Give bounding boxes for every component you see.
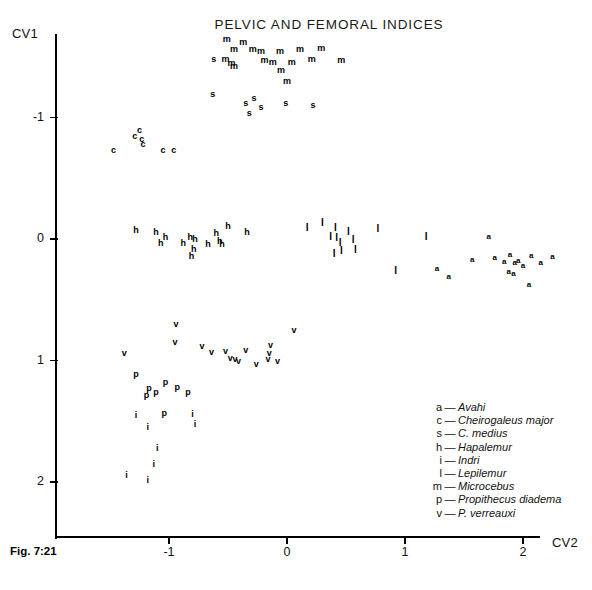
data-point-l: l (376, 224, 379, 234)
data-point-s: s (247, 108, 252, 117)
data-point-h: h (219, 239, 225, 248)
data-point-a: a (446, 273, 450, 281)
data-point-l: l (394, 266, 397, 276)
legend-key-p: p (428, 493, 442, 506)
x-tick-2 (404, 536, 406, 544)
data-point-v: v (172, 338, 177, 347)
data-point-s: s (259, 102, 264, 111)
legend-key-i: i (428, 454, 442, 467)
y-tick-1 (50, 238, 58, 240)
data-point-p: p (185, 388, 191, 397)
x-tick-label-1: 0 (275, 545, 299, 559)
legend-label-c: Cheirogaleus major (458, 414, 553, 426)
data-point-m: m (269, 57, 277, 66)
data-point-i: i (146, 423, 149, 432)
x-tick-0 (168, 536, 170, 544)
legend-item-c: c—Cheirogaleus major (428, 414, 561, 427)
data-point-m: m (230, 45, 238, 54)
data-point-l: l (340, 246, 343, 256)
legend-dash-icon: — (442, 454, 458, 467)
legend-label-v: P. verreauxi (458, 507, 515, 519)
data-point-p: p (133, 369, 139, 378)
figure-container: PELVIC AND FEMORAL INDICES CV1 CV2 -1012… (0, 0, 592, 590)
data-point-l: l (321, 218, 324, 228)
data-point-s: s (310, 101, 315, 110)
data-point-h: h (153, 227, 159, 236)
legend-key-v: v (428, 507, 442, 520)
legend-dash-icon: — (442, 467, 458, 480)
data-point-m: m (308, 55, 316, 64)
data-point-m: m (276, 46, 284, 55)
data-point-v: v (243, 345, 248, 354)
x-tick-3 (522, 536, 524, 544)
x-tick-label-3: 2 (511, 545, 535, 559)
data-point-v: v (254, 360, 259, 369)
x-tick-1 (286, 536, 288, 544)
data-point-a: a (492, 254, 496, 262)
legend-item-i: i—Indri (428, 454, 561, 467)
legend-dash-icon: — (442, 427, 458, 440)
y-axis-label: CV1 (12, 26, 38, 41)
legend-label-i: Indri (458, 454, 479, 466)
y-tick-0 (50, 117, 58, 119)
data-point-v: v (122, 349, 127, 358)
data-point-h: h (225, 221, 231, 230)
legend: a—Avahic—Cheirogaleus majors—C. mediush—… (428, 401, 561, 520)
legend-label-l: Lepilemur (458, 467, 506, 479)
legend-item-v: v—P. verreauxi (428, 507, 561, 520)
data-point-l: l (425, 232, 428, 242)
y-tick-label-1: 0 (14, 231, 44, 245)
data-point-m: m (288, 57, 296, 66)
data-point-m: m (257, 46, 265, 55)
data-point-i: i (135, 411, 138, 420)
data-point-c: c (111, 146, 116, 155)
data-point-m: m (261, 56, 269, 65)
data-point-a: a (527, 281, 531, 289)
data-point-a: a (529, 252, 533, 260)
data-point-m: m (277, 66, 285, 75)
legend-item-l: l—Lepilemur (428, 467, 561, 480)
data-point-h: h (205, 239, 211, 248)
legend-key-c: c (428, 414, 442, 427)
data-point-v: v (266, 355, 271, 364)
y-tick-label-2: 1 (14, 353, 44, 367)
y-axis-line (55, 34, 57, 539)
data-point-l: l (347, 227, 350, 237)
data-point-m: m (337, 56, 345, 65)
data-point-a: a (521, 262, 525, 270)
figure-caption: Fig. 7:21 (10, 545, 57, 557)
x-axis-label: CV2 (552, 535, 578, 550)
data-point-m: m (249, 45, 257, 54)
data-point-a: a (435, 265, 439, 273)
y-tick-label-3: 2 (14, 474, 44, 488)
legend-key-h: h (428, 441, 442, 454)
legend-item-a: a—Avahi (428, 401, 561, 414)
x-tick-label-0: -1 (157, 545, 181, 559)
data-point-a: a (470, 256, 474, 264)
legend-dash-icon: — (442, 493, 458, 506)
legend-key-l: l (428, 467, 442, 480)
data-point-h: h (192, 235, 198, 244)
data-point-h: h (133, 226, 139, 235)
legend-dash-icon: — (442, 480, 458, 493)
legend-dash-icon: — (442, 507, 458, 520)
x-axis-line (55, 536, 540, 538)
data-point-p: p (153, 388, 159, 397)
data-point-m: m (230, 62, 238, 71)
data-point-m: m (223, 34, 231, 43)
legend-key-s: s (428, 427, 442, 440)
data-point-l: l (329, 232, 332, 242)
data-point-s: s (211, 55, 216, 64)
data-point-a: a (487, 233, 491, 241)
page-title: PELVIC AND FEMORAL INDICES (0, 17, 592, 32)
data-point-s: s (283, 98, 288, 107)
data-point-a: a (502, 258, 506, 266)
data-point-l: l (333, 249, 336, 259)
legend-label-a: Avahi (458, 401, 485, 413)
data-point-l: l (354, 245, 357, 255)
legend-key-a: a (428, 401, 442, 414)
x-tick-label-2: 1 (393, 545, 417, 559)
data-point-i: i (152, 459, 155, 468)
data-point-h: h (158, 238, 164, 247)
data-point-c: c (171, 146, 176, 155)
